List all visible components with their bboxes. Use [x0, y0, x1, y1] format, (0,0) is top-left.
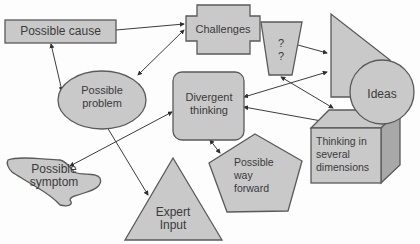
edge-problem-expert [104, 122, 148, 195]
edge-divergent-triangle [244, 72, 327, 97]
edge-question-cube [281, 77, 333, 108]
edge-question-triangle [298, 45, 327, 53]
edge-cause-challenges [116, 24, 184, 30]
question-label: ? ? [266, 37, 296, 63]
expert-input-label: Expert Input [145, 206, 201, 232]
edge-cause-problem [51, 44, 62, 91]
thinking-dimensions-label: Thinking in several dimensions [316, 135, 382, 174]
diagram-canvas: Possible cause Challenges ? ? Ideas Poss… [0, 0, 420, 244]
possible-symptom-label: Possible symptom [14, 163, 94, 189]
possible-way-forward-label: Possible way forward [234, 156, 294, 195]
divergent-thinking-label: Divergent thinking [176, 91, 242, 117]
possible-cause-label: Possible cause [8, 25, 113, 38]
edge-divergent-wayforward [210, 140, 220, 153]
ideas-label: Ideas [360, 88, 404, 101]
possible-problem-label: Possible problem [70, 84, 134, 110]
edge-problem-challenges [138, 30, 184, 75]
edge-divergent-cube [244, 107, 327, 122]
challenges-label: Challenges [190, 23, 256, 36]
